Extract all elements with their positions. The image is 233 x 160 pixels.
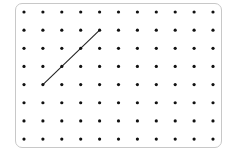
grid-dot bbox=[79, 47, 82, 50]
grid-dot bbox=[117, 119, 120, 122]
grid-dot bbox=[79, 101, 82, 104]
grid-dot bbox=[22, 137, 25, 140]
grid-dot bbox=[79, 29, 82, 32]
grid-dot bbox=[98, 10, 101, 13]
grid-dot bbox=[136, 119, 139, 122]
grid-dot bbox=[117, 83, 120, 86]
grid-dot bbox=[136, 137, 139, 140]
grid-dot bbox=[98, 137, 101, 140]
grid-dot bbox=[211, 83, 214, 86]
grid-dot bbox=[174, 83, 177, 86]
grid-dot bbox=[193, 65, 196, 68]
grid-dot bbox=[41, 29, 44, 32]
grid-dot bbox=[22, 83, 25, 86]
grid-dot bbox=[193, 29, 196, 32]
grid-dot bbox=[60, 119, 63, 122]
grid-dot bbox=[60, 83, 63, 86]
grid-dot bbox=[211, 47, 214, 50]
grid-dot bbox=[79, 10, 82, 13]
grid-dot bbox=[193, 101, 196, 104]
grid-dot bbox=[211, 119, 214, 122]
grid-dot bbox=[155, 101, 158, 104]
grid-dot bbox=[211, 101, 214, 104]
grid-dot bbox=[41, 10, 44, 13]
grid-dot bbox=[98, 47, 101, 50]
grid-dot bbox=[174, 119, 177, 122]
grid-dot bbox=[174, 10, 177, 13]
grid-dot bbox=[155, 83, 158, 86]
grid-dot bbox=[155, 137, 158, 140]
grid-dot bbox=[117, 137, 120, 140]
grid-dot bbox=[193, 83, 196, 86]
grid-dot bbox=[79, 137, 82, 140]
grid-dot bbox=[117, 29, 120, 32]
grid-dot bbox=[136, 83, 139, 86]
grid-dot bbox=[136, 29, 139, 32]
grid-dot bbox=[79, 83, 82, 86]
grid-dot bbox=[60, 137, 63, 140]
grid-dot bbox=[60, 10, 63, 13]
grid-dot bbox=[98, 65, 101, 68]
grid-dot bbox=[98, 29, 101, 32]
grid-dot bbox=[155, 47, 158, 50]
grid-dot bbox=[155, 10, 158, 13]
grid-dot bbox=[174, 65, 177, 68]
grid-dot bbox=[22, 10, 25, 13]
grid-dot bbox=[155, 29, 158, 32]
grid-dot bbox=[22, 101, 25, 104]
grid-dot bbox=[211, 29, 214, 32]
grid-dot bbox=[79, 119, 82, 122]
grid-dot bbox=[136, 10, 139, 13]
grid-dot bbox=[22, 29, 25, 32]
grid-dot bbox=[98, 101, 101, 104]
grid-dot bbox=[174, 137, 177, 140]
grid-dot bbox=[98, 83, 101, 86]
grid-dot bbox=[174, 47, 177, 50]
grid-dot bbox=[136, 101, 139, 104]
line-segment bbox=[43, 30, 100, 84]
grid-dot bbox=[22, 119, 25, 122]
grid-dot bbox=[193, 47, 196, 50]
grid-dot bbox=[41, 137, 44, 140]
grid-dot bbox=[117, 101, 120, 104]
grid-dot bbox=[41, 83, 44, 86]
grid-dot bbox=[174, 101, 177, 104]
grid-dot bbox=[60, 29, 63, 32]
grid-dot bbox=[136, 65, 139, 68]
grid-dot bbox=[155, 65, 158, 68]
grid-dot bbox=[211, 137, 214, 140]
grid-dot bbox=[117, 10, 120, 13]
grid-dot bbox=[211, 65, 214, 68]
grid-dot bbox=[155, 119, 158, 122]
grid-dot bbox=[60, 47, 63, 50]
grid-dot bbox=[136, 47, 139, 50]
grid-dot bbox=[193, 137, 196, 140]
grid-dot bbox=[211, 10, 214, 13]
dot-grid bbox=[0, 0, 233, 160]
grid-dot bbox=[22, 65, 25, 68]
grid-dot bbox=[41, 65, 44, 68]
grid-dot bbox=[41, 101, 44, 104]
grid-dot bbox=[79, 65, 82, 68]
grid-dot bbox=[174, 29, 177, 32]
grid-dot bbox=[41, 47, 44, 50]
grid-dot bbox=[60, 65, 63, 68]
grid-dot bbox=[98, 119, 101, 122]
grid-dot bbox=[193, 10, 196, 13]
grid-dot bbox=[193, 119, 196, 122]
grid-dot bbox=[41, 119, 44, 122]
grid-dot bbox=[117, 65, 120, 68]
grid-dot bbox=[22, 47, 25, 50]
grid-dot bbox=[117, 47, 120, 50]
grid-dot bbox=[60, 101, 63, 104]
